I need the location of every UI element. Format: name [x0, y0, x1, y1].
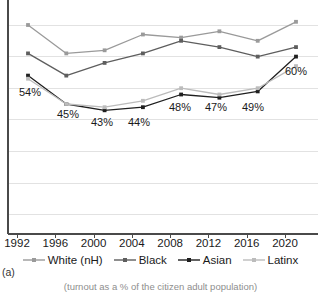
legend-item-black[interactable]: Black [114, 254, 167, 267]
legend-label: Asian [203, 254, 232, 267]
data-label: 60% [285, 65, 307, 77]
data-point-marker [256, 86, 260, 90]
data-point-marker [294, 45, 298, 49]
data-point-marker [141, 105, 145, 109]
data-point-marker [256, 39, 260, 43]
data-point-marker [294, 20, 298, 24]
square-marker [114, 255, 136, 265]
data-point-marker [141, 99, 145, 103]
data-label: 49% [242, 101, 264, 113]
data-point-marker [141, 52, 145, 56]
chart-legend: White (nH)BlackAsianLatinx [0, 252, 321, 268]
data-point-marker [218, 93, 222, 97]
chart-plot-area: 54%45%43%44%48%47%49%60% [0, 0, 321, 240]
panel-letter-label: (a) [2, 266, 15, 278]
data-point-marker [179, 39, 183, 43]
data-label: 43% [91, 116, 113, 128]
square-marker [178, 255, 200, 265]
data-point-marker [179, 93, 183, 97]
data-point-marker [64, 74, 68, 78]
data-point-marker [64, 102, 68, 106]
figure-caption: (turnout as a % of the citizen adult pop… [0, 281, 321, 292]
data-point-marker [103, 48, 107, 52]
data-point-marker [218, 29, 222, 33]
data-point-marker [26, 23, 30, 27]
legend-item-asian[interactable]: Asian [178, 254, 232, 267]
data-point-marker [179, 86, 183, 90]
line-chart-svg: 54%45%43%44%48%47%49%60% [0, 0, 321, 240]
data-label: 44% [128, 116, 150, 128]
data-label: 47% [205, 101, 227, 113]
legend-label: White (nH) [48, 254, 103, 267]
data-point-marker [26, 52, 30, 56]
square-marker [243, 255, 265, 265]
data-point-marker [103, 61, 107, 65]
square-marker [23, 255, 45, 265]
legend-item-latinx[interactable]: Latinx [243, 254, 299, 267]
data-label: 45% [57, 108, 79, 120]
data-label: 48% [169, 101, 191, 113]
legend-item-white-nh[interactable]: White (nH) [23, 254, 103, 267]
legend-label: Latinx [268, 254, 299, 267]
data-point-marker [218, 45, 222, 49]
data-point-marker [64, 52, 68, 56]
x-axis-label-2020: 2020 [262, 236, 308, 250]
series-line-white-nh [28, 22, 296, 54]
data-point-marker [103, 105, 107, 109]
data-point-marker [141, 33, 145, 37]
data-point-marker [26, 77, 30, 81]
data-point-marker [294, 55, 298, 59]
data-point-marker [256, 55, 260, 59]
data-label: 54% [19, 86, 41, 98]
legend-label: Black [139, 254, 167, 267]
